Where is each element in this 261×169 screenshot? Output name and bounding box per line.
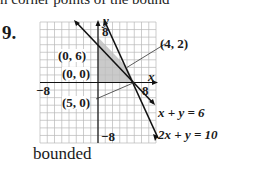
equation-x-plus-y-eq-6: x + y = 6: [158, 106, 205, 119]
y-tick-neg: −8: [101, 130, 115, 143]
leader-line: [96, 83, 134, 100]
point-label-0-6: (0, 6): [58, 49, 86, 62]
x-tick-neg: −8: [36, 84, 50, 97]
region-caption: bounded: [33, 144, 92, 164]
x-tick-pos: 8: [142, 84, 149, 97]
y-tick-pos: 8: [102, 25, 109, 38]
point-label-5-0: (5, 0): [62, 96, 90, 109]
point-label-0-0: (0, 0): [62, 67, 90, 80]
equation-2x-plus-y-eq-10: 2x + y = 10: [158, 128, 218, 141]
y-axis-arrow-icon: [96, 20, 101, 26]
point-label-4-2: (4, 2): [160, 37, 188, 50]
axes: [40, 22, 156, 143]
x-axis-label: x: [148, 70, 155, 83]
